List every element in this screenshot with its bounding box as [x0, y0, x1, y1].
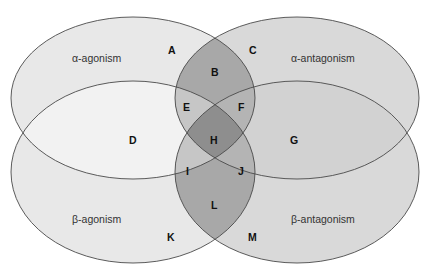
region-c-label: C	[249, 44, 257, 56]
venn-diagram: α-agonism α-antagonism β-agonism β-antag…	[0, 0, 431, 274]
region-d-label: D	[129, 134, 137, 146]
region-m-label: M	[248, 231, 257, 243]
region-j-label: J	[238, 165, 244, 177]
alpha-agonism-label: α-agonism	[72, 52, 122, 64]
region-a-label: A	[168, 44, 176, 56]
region-i-label: I	[186, 165, 189, 177]
region-k-label: K	[167, 231, 175, 243]
region-e-label: E	[183, 101, 190, 113]
beta-antagonism-label: β-antagonism	[291, 213, 355, 225]
region-h-label: H	[210, 134, 218, 146]
region-f-label: F	[238, 101, 245, 113]
region-b-label: B	[211, 66, 219, 78]
alpha-antagonism-label: α-antagonism	[291, 52, 355, 64]
region-g-label: G	[290, 134, 298, 146]
region-l-label: L	[211, 199, 218, 211]
beta-agonism-label: β-agonism	[72, 213, 121, 225]
